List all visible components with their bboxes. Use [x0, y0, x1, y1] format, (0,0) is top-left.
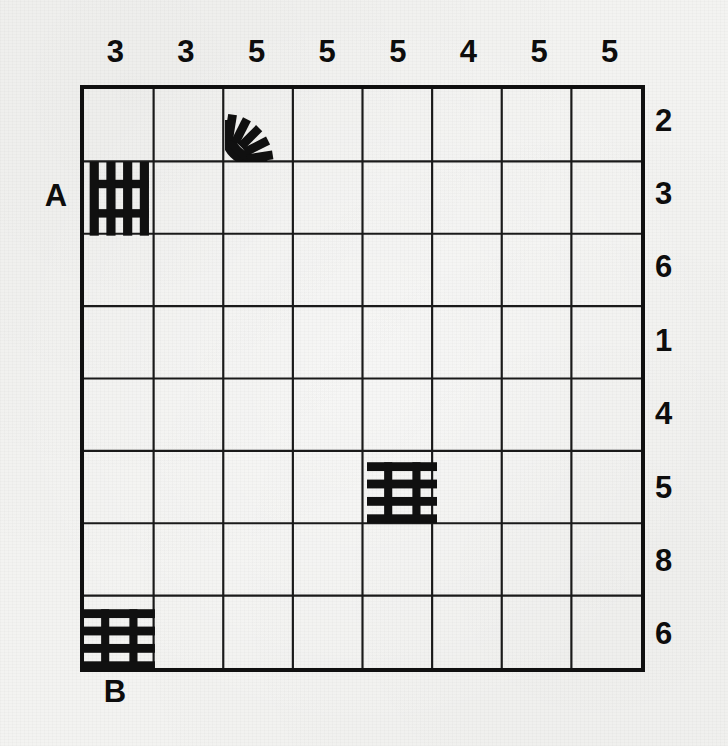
column-clue-2: 3 — [151, 36, 222, 70]
track-curve-r1c3-glyph — [225, 89, 296, 162]
row-clue-4: 1 — [655, 325, 695, 359]
column-clue-1: 3 — [80, 36, 151, 70]
track-vertical-r6c5[interactable] — [367, 456, 438, 529]
column-clue-7: 5 — [504, 36, 575, 70]
endpoint-label-a: A — [36, 180, 76, 211]
column-clue-8: 5 — [574, 36, 645, 70]
column-clue-4: 5 — [292, 36, 363, 70]
track-curve-r1c3[interactable] — [225, 89, 296, 162]
track-horizontal-r2c1-glyph — [84, 162, 155, 235]
puzzle-grid[interactable] — [80, 85, 645, 672]
row-clue-1: 2 — [655, 105, 695, 139]
row-clue-3: 6 — [655, 251, 695, 285]
row-clue-6: 5 — [655, 472, 695, 506]
track-vertical-r6c5-glyph — [367, 456, 438, 529]
column-clue-6: 4 — [433, 36, 504, 70]
column-clue-5: 5 — [363, 36, 434, 70]
track-horizontal-r2c1[interactable] — [84, 162, 155, 235]
track-vertical-r8c1[interactable] — [84, 603, 155, 676]
track-vertical-r8c1-glyph — [84, 603, 155, 676]
track-piece-layer — [84, 89, 641, 668]
row-clue-5: 4 — [655, 398, 695, 432]
row-clue-2: 3 — [655, 178, 695, 212]
endpoint-label-b: B — [95, 676, 135, 707]
row-clue-7: 8 — [655, 545, 695, 579]
column-clue-3: 5 — [221, 36, 292, 70]
row-clue-8: 6 — [655, 618, 695, 652]
railroad-puzzle: 33555455 23614586 A B — [0, 0, 728, 746]
